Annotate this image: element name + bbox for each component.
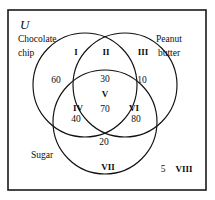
region-numeral-i: I (74, 47, 78, 57)
region-numeral-iii: III (138, 47, 149, 57)
region-numeral-ii: II (102, 47, 110, 57)
venn-diagram-canvas: U Chocolate chip Peanut butter Sugar I 6… (0, 0, 215, 200)
region-count-ii: 30 (100, 74, 110, 84)
region-count-v: 70 (100, 104, 110, 114)
set-label-sugar: Sugar (31, 150, 54, 160)
region-count-iii: 10 (137, 75, 147, 85)
region-numeral-viii: VIII (175, 164, 193, 174)
set-label-peanut-butter-line2: butter (158, 48, 181, 58)
region-count-i: 60 (51, 75, 61, 85)
region-numeral-v: V (102, 89, 109, 99)
circle-chocolate-chip (33, 33, 137, 137)
region-numeral-vii: VII (101, 162, 115, 172)
circle-sugar (53, 70, 157, 174)
set-label-chocolate-chip-line2: chip (18, 48, 35, 58)
set-label-peanut-butter-line1: Peanut (156, 34, 182, 44)
universal-set-symbol: U (20, 17, 31, 32)
region-count-vii: 20 (99, 137, 109, 147)
set-label-chocolate-chip-line1: Chocolate (18, 34, 57, 44)
region-count-iv: 40 (71, 114, 81, 124)
region-numeral-vi: VI (129, 103, 139, 113)
region-numeral-iv: IV (73, 103, 84, 113)
region-count-vi: 80 (131, 114, 141, 124)
region-count-viii: 5 (161, 164, 166, 174)
venn-diagram-figure: U Chocolate chip Peanut butter Sugar I 6… (0, 0, 215, 200)
